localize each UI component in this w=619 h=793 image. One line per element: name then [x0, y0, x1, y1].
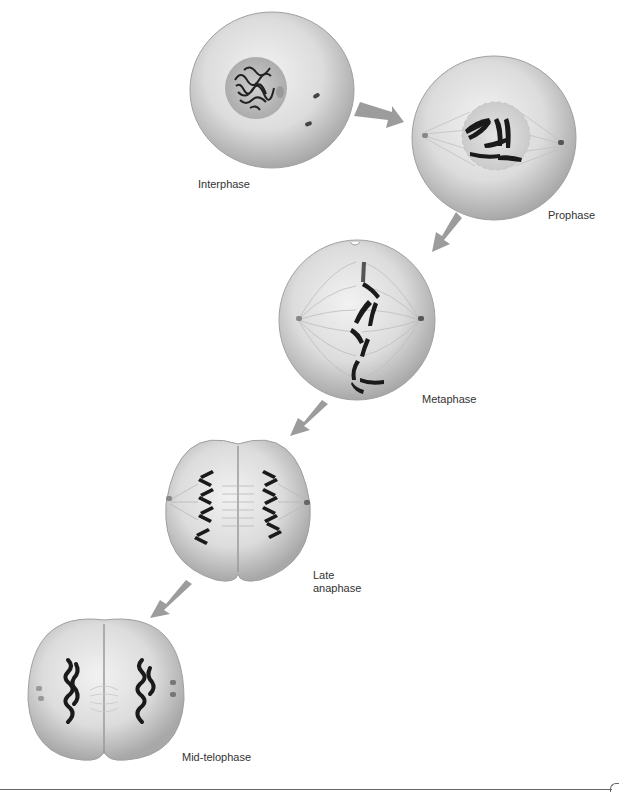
arrow-icon	[354, 102, 404, 128]
arrow-icon	[432, 212, 462, 252]
footer-rule	[0, 789, 612, 790]
late-anaphase-cell	[166, 440, 311, 581]
metaphase-cell	[279, 240, 435, 400]
label-mid-telophase: Mid-telophase	[182, 751, 251, 764]
mid-telophase-cell	[28, 619, 184, 760]
label-metaphase: Metaphase	[422, 393, 476, 406]
label-late-anaphase-line1: Late	[313, 569, 334, 582]
interphase-cell	[190, 12, 354, 168]
label-prophase: Prophase	[548, 209, 595, 222]
arrow-icon	[150, 580, 192, 618]
label-late-anaphase-line2: anaphase	[313, 582, 361, 595]
arrow-icon	[290, 400, 328, 436]
label-interphase: Interphase	[198, 178, 250, 191]
footer-curl	[610, 783, 619, 792]
prophase-cell	[412, 56, 576, 220]
